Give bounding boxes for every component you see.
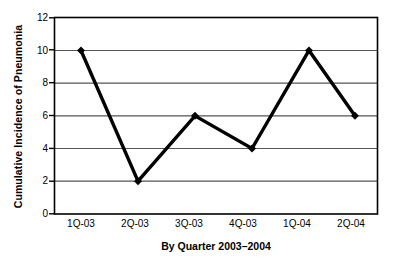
x-tick-label: 2Q-04 xyxy=(324,218,378,232)
x-tick-label: 1Q-04 xyxy=(270,218,324,232)
x-axis-tick-labels: 1Q-03 2Q-03 3Q-03 4Q-03 1Q-04 2Q-04 xyxy=(54,218,378,232)
line-chart-figure: Cumulative Incidence of Pneumonia 12 10 … xyxy=(0,0,393,263)
x-tick-label: 3Q-03 xyxy=(162,218,216,232)
gridlines xyxy=(55,51,377,182)
x-tick-label: 4Q-03 xyxy=(216,218,270,232)
y-axis-ticks xyxy=(49,18,55,214)
x-tick-label: 2Q-03 xyxy=(108,218,162,232)
x-axis-title: By Quarter 2003–2004 xyxy=(54,240,378,253)
x-tick-label: 1Q-03 xyxy=(54,218,108,232)
